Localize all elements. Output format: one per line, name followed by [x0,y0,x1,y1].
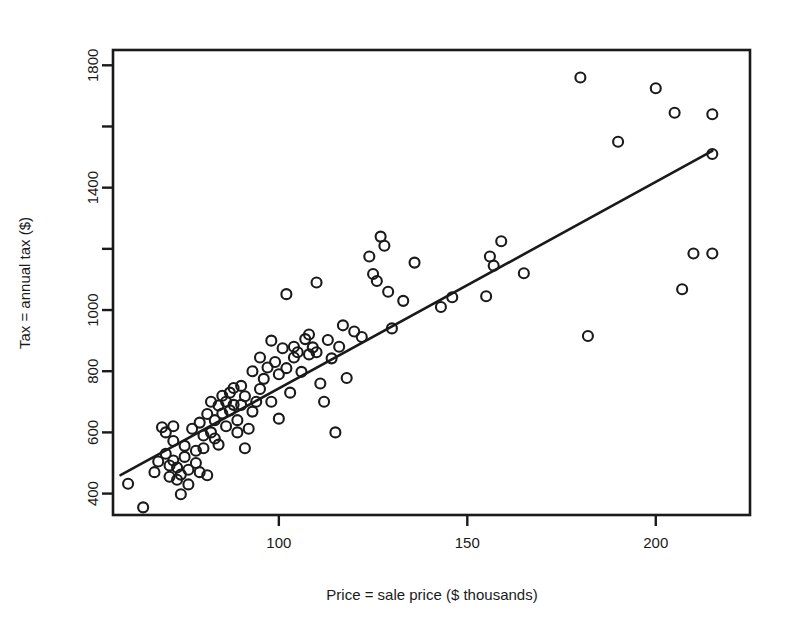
y-tick-label: 400 [84,481,101,506]
y-tick-label: 1400 [84,171,101,204]
y-tick-label: 1000 [84,293,101,326]
plot-canvas: 100150200 400600800100014001800 Price = … [0,0,792,625]
x-tick-label: 100 [266,534,291,551]
y-tick-label: 800 [84,359,101,384]
y-tick-label: 600 [84,420,101,445]
y-axis-title: Tax = annual tax ($) [16,217,33,349]
y-tick-label: 1800 [84,49,101,82]
plot-background [0,0,792,625]
x-tick-label: 150 [455,534,480,551]
x-axis-title: Price = sale price ($ thousands) [326,586,537,603]
scatter-plot-figure: 100150200 400600800100014001800 Price = … [0,0,792,625]
x-tick-label: 200 [643,534,668,551]
